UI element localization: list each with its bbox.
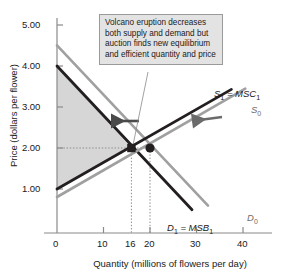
- curve-label-d0: D0: [247, 212, 258, 225]
- x-tick-label-40: 40: [237, 238, 247, 249]
- callout-line-1: Volcano eruption decreases: [105, 18, 217, 29]
- curve-label-s0: S0: [251, 104, 261, 117]
- y-tick-label-5: 5.00: [22, 19, 40, 30]
- curve-label-d0-sub: 0: [254, 218, 258, 225]
- volcano-callout-box: Volcano eruption decreases both supply a…: [99, 14, 223, 65]
- curve-label-d1-msb1: D1 = MSB1: [167, 222, 213, 235]
- callout-line-4: and efficient quantity and price: [105, 50, 217, 61]
- x-tick-label-16: 16: [125, 238, 135, 249]
- x-tick-label-10: 10: [97, 238, 107, 249]
- y-axis-title: Price (dollars per flower): [8, 56, 19, 176]
- y-tick-label-2: 2.00: [22, 142, 40, 153]
- y-tick-label-3: 3.00: [22, 101, 40, 112]
- curve-label-s1-suffix-sub: 1: [256, 94, 260, 101]
- x-tick-label-20: 20: [144, 238, 154, 249]
- x-tick-label-30: 30: [190, 238, 200, 249]
- curve-label-s1-msc1: S1 = MSC1: [214, 88, 260, 101]
- curve-label-s1-suffix: = MSC: [224, 88, 256, 99]
- callout-line-2: both supply and demand but: [105, 29, 217, 40]
- y-tick-label-1: 1.00: [22, 183, 40, 194]
- y-tick-label-4: 4.00: [22, 60, 40, 71]
- marker-new-equilibrium: [127, 144, 135, 152]
- curve-label-d1-suffix-sub: 1: [209, 228, 213, 235]
- marker-original-equilibrium: [145, 143, 154, 152]
- x-axis-title: Quantity (millions of flowers per day): [57, 258, 283, 269]
- curve-label-d0-text: D: [247, 212, 254, 223]
- volcano-callout-text: Volcano eruption decreases both supply a…: [105, 18, 217, 60]
- chart-figure: 5.00 4.00 3.00 2.00 1.00 0 10 16 20 30 4…: [0, 0, 283, 279]
- callout-line-3: auction finds new equilibrium: [105, 39, 217, 50]
- x-tick-label-0: 0: [53, 238, 58, 249]
- curve-label-d1-suffix: = MSB: [178, 222, 209, 233]
- curve-label-s0-sub: 0: [257, 110, 261, 117]
- curve-label-d1-text: D: [167, 222, 174, 233]
